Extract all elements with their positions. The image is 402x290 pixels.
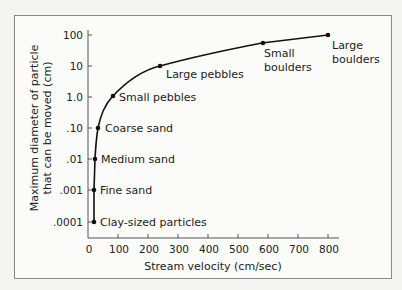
x-tick-label: 300 [169, 243, 189, 255]
label-small-boulders-2: boulders [264, 61, 312, 74]
data-point-small-boulders [261, 41, 266, 46]
data-point-small-pebbles [111, 94, 116, 99]
y-tick-label: 1.0 [66, 91, 83, 103]
data-point-clay [92, 220, 97, 225]
x-tick-label: 0 [86, 243, 93, 255]
label-small-boulders-1: Small [264, 47, 295, 60]
point-labels: Clay-sized particles Fine sand Medium sa… [100, 39, 380, 229]
data-point-fine-sand [92, 188, 97, 193]
x-tick-label: 600 [259, 243, 279, 255]
data-point-large-pebbles [158, 64, 163, 69]
y-tick-labels: 100 10 1.0 .10 .01 .001 .0001 [53, 29, 83, 228]
y-tick-label: .001 [60, 184, 83, 196]
x-ticks [118, 234, 328, 238]
x-tick-label: 500 [229, 243, 249, 255]
data-point-medium-sand [93, 157, 98, 162]
x-tick-label: 200 [139, 243, 159, 255]
label-large-boulders-1: Large [332, 39, 363, 52]
x-tick-label: 400 [199, 243, 219, 255]
y-tick-label: 10 [70, 60, 83, 72]
label-clay: Clay-sized particles [100, 216, 207, 229]
y-tick-label: .0001 [53, 216, 83, 228]
x-axis-title: Stream velocity (cm/sec) [144, 260, 281, 273]
x-tick-labels: 0 100 200 300 400 500 600 700 800 [86, 243, 339, 255]
chart-svg: 100 10 1.0 .10 .01 .001 .0001 0 100 200 … [0, 0, 402, 290]
y-ticks [88, 35, 92, 222]
label-coarse-sand: Coarse sand [105, 122, 173, 135]
y-tick-label: .01 [66, 153, 83, 165]
data-point-large-boulders [326, 33, 331, 38]
x-tick-label: 800 [319, 243, 339, 255]
y-axis-title-line1: Maximum diameter of particle [28, 44, 41, 211]
label-small-pebbles: Small pebbles [119, 91, 197, 104]
label-large-boulders-2: boulders [332, 53, 380, 66]
label-large-pebbles: Large pebbles [166, 68, 244, 81]
y-tick-label: 100 [63, 29, 83, 41]
y-axis-title-line2: that can be moved (cm) [41, 62, 54, 195]
label-medium-sand: Medium sand [101, 153, 175, 166]
data-point-coarse-sand [96, 126, 101, 131]
x-tick-label: 700 [289, 243, 309, 255]
x-tick-label: 100 [109, 243, 129, 255]
label-fine-sand: Fine sand [100, 184, 152, 197]
y-axis-title: Maximum diameter of particle that can be… [28, 44, 54, 211]
y-tick-label: .10 [66, 122, 83, 134]
